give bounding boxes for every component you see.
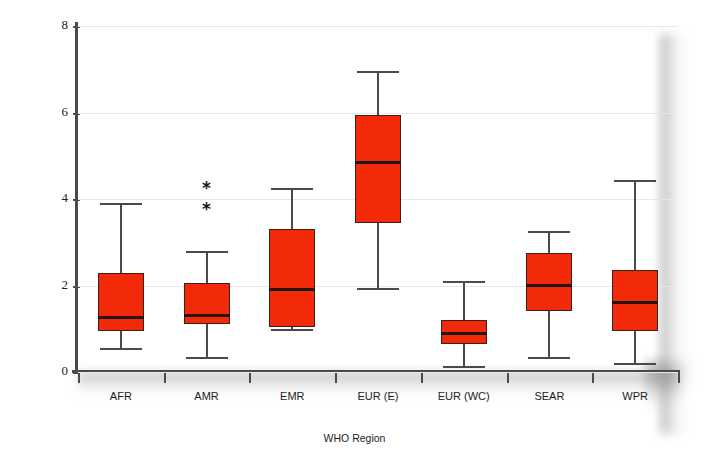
x-tick-label-emr: EMR	[280, 390, 304, 402]
gridline	[78, 372, 678, 373]
whisker-cap-lower	[528, 357, 570, 359]
median-line	[269, 288, 315, 291]
whisker-cap-lower	[100, 348, 142, 350]
y-tick-label: 4	[44, 190, 68, 206]
median-line	[355, 161, 401, 164]
whisker-lower	[548, 311, 550, 356]
gridline	[78, 26, 678, 27]
whisker-cap-upper	[357, 71, 399, 73]
box-iqr	[526, 253, 572, 311]
whisker-cap-lower	[271, 329, 313, 331]
whisker-upper	[548, 231, 550, 253]
whisker-cap-lower	[186, 357, 228, 359]
whisker-lower	[634, 331, 636, 363]
whisker-upper	[463, 281, 465, 320]
whisker-cap-lower	[443, 366, 485, 368]
x-tick-label-eur-e: EUR (E)	[358, 390, 399, 402]
whisker-upper	[120, 203, 122, 272]
x-tick-mark	[335, 373, 337, 383]
median-line	[98, 316, 144, 319]
whisker-cap-upper	[528, 231, 570, 233]
whisker-lower	[206, 324, 208, 356]
x-tick-label-sear: SEAR	[534, 390, 564, 402]
y-tick-label: 8	[44, 17, 68, 33]
box-iqr	[98, 273, 144, 331]
whisker-lower	[120, 331, 122, 348]
box-iqr	[269, 229, 315, 326]
whisker-cap-upper	[271, 188, 313, 190]
median-line	[526, 284, 572, 287]
x-tick-mark	[421, 373, 423, 383]
chart-figure: % any resistance 02468 ** AFRAMREMREUR (…	[0, 0, 709, 475]
whisker-cap-lower	[357, 288, 399, 290]
y-tick-label: 6	[44, 104, 68, 120]
whisker-cap-lower	[614, 363, 656, 365]
whisker-upper	[377, 71, 379, 114]
x-tick-mark	[592, 373, 594, 383]
whisker-cap-upper	[443, 281, 485, 283]
x-tick-label-afr: AFR	[110, 390, 132, 402]
whisker-cap-upper	[614, 180, 656, 182]
whisker-cap-upper	[186, 251, 228, 253]
x-tick-mark	[507, 373, 509, 383]
outlier-marker: *	[202, 201, 211, 218]
x-tick-mark	[249, 373, 251, 383]
x-tick-label-amr: AMR	[194, 390, 218, 402]
box-iqr	[184, 283, 230, 324]
x-tick-mark	[164, 373, 166, 383]
x-tick-label-wpr: WPR	[622, 390, 648, 402]
median-line	[184, 314, 230, 317]
x-tick-mark	[678, 373, 680, 383]
x-axis-title: WHO Region	[0, 432, 709, 444]
whisker-lower	[377, 223, 379, 288]
whisker-upper	[291, 188, 293, 229]
median-line	[612, 301, 658, 304]
median-line	[441, 332, 487, 335]
box-iqr	[355, 115, 401, 223]
whisker-cap-upper	[100, 203, 142, 205]
whisker-lower	[463, 344, 465, 366]
plot-area: **	[78, 26, 678, 372]
whisker-upper	[206, 251, 208, 283]
whisker-upper	[634, 180, 636, 271]
y-tick-label: 0	[44, 363, 68, 379]
x-tick-label-eur-wc: EUR (WC)	[438, 390, 490, 402]
y-tick-label: 2	[44, 277, 68, 293]
outlier-marker: *	[202, 179, 211, 196]
x-tick-mark	[78, 373, 80, 383]
